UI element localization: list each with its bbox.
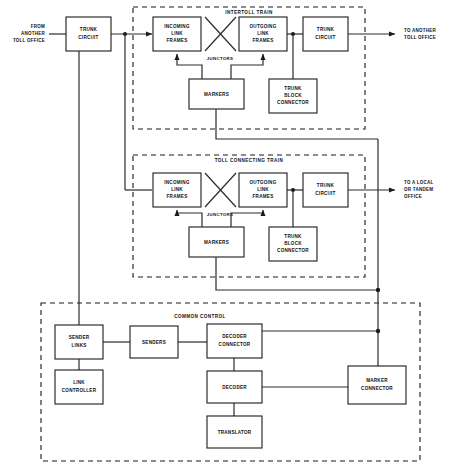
label-it-incoming-1: LINK	[171, 31, 183, 36]
label-tc-trunkblock-0: TRUNK	[284, 234, 302, 239]
label-sender-links-1: LINKS	[71, 343, 86, 348]
label-sender-links-0: SENDER	[69, 335, 90, 340]
label-it-trunk-out-0: TRUNK	[317, 27, 335, 32]
label-tc-outgoing-1: LINK	[257, 187, 269, 192]
label-marker-connector-0: MARKER	[366, 378, 388, 383]
label-it-trunk-out-1: CIRCUIT	[315, 35, 335, 40]
label-senders: SENDERS	[142, 340, 166, 345]
junctors-intertoll	[205, 17, 236, 51]
block-diagram-svg: INTERTOLL TRAIN TOLL CONNECTING TRAIN CO…	[0, 0, 461, 475]
diagram-canvas: INTERTOLL TRAIN TOLL CONNECTING TRAIN CO…	[0, 0, 461, 475]
label-tc-incoming-1: LINK	[171, 187, 183, 192]
group-label-common-control: COMMON CONTROL	[174, 314, 226, 319]
svg-text:FROM: FROM	[31, 24, 45, 29]
label-it-incoming-2: FRAMES	[167, 38, 188, 43]
svg-text:TOLL OFFICE: TOLL OFFICE	[13, 38, 45, 43]
svg-text:ANOTHER: ANOTHER	[21, 31, 45, 36]
svg-text:TO A LOCAL: TO A LOCAL	[404, 180, 434, 185]
wire-tc-markers-to-bus	[216, 257, 378, 290]
group-label-intertoll: INTERTOLL TRAIN	[225, 10, 273, 15]
label-tc-incoming-0: INCOMING	[164, 180, 190, 185]
label-trunk-circuit-in-0: TRUNK	[80, 27, 98, 32]
label-it-outgoing-0: OUTGOING	[249, 24, 276, 29]
io-label-output-top: TO ANOTHER TOLL OFFICE	[404, 28, 437, 40]
svg-text:TOLL OFFICE: TOLL OFFICE	[404, 35, 436, 40]
wire-it-markers-to-incoming	[177, 54, 202, 79]
label-it-outgoing-1: LINK	[257, 31, 269, 36]
label-tc-trunk-out-0: TRUNK	[317, 183, 335, 188]
label-junctors-intertoll: JUNCTORS	[207, 56, 233, 61]
label-it-trunkblock-1: BLOCK	[284, 93, 302, 98]
label-tc-trunk-out-1: CIRCUIT	[315, 191, 335, 196]
junctors-toll-connecting	[205, 173, 236, 207]
wire-tc-markers-to-outgoing	[231, 210, 263, 227]
svg-text:TO ANOTHER: TO ANOTHER	[404, 28, 437, 33]
label-it-trunkblock-2: CONNECTOR	[277, 100, 309, 105]
label-tc-incoming-2: FRAMES	[167, 194, 188, 199]
junction-dot-bus-tc-markers	[376, 288, 380, 292]
label-marker-connector-1: CONNECTOR	[361, 386, 393, 391]
io-label-output-mid: TO A LOCAL OR TANDEM OFFICE	[404, 180, 434, 199]
label-junctors-toll-connecting: JUNCTORS	[207, 212, 233, 217]
label-link-controller-0: LINK	[73, 380, 85, 385]
label-it-trunkblock-0: TRUNK	[284, 86, 302, 91]
label-it-markers: MARKERS	[204, 92, 229, 97]
label-it-incoming-0: INCOMING	[164, 24, 190, 29]
label-it-outgoing-2: FRAMES	[253, 38, 274, 43]
svg-text:OFFICE: OFFICE	[404, 194, 422, 199]
label-tc-trunkblock-2: CONNECTOR	[277, 248, 309, 253]
label-decoder-connector-0: DECODER	[222, 334, 247, 339]
label-translator: TRANSLATOR	[218, 430, 252, 435]
label-tc-trunkblock-1: BLOCK	[284, 241, 302, 246]
label-decoder: DECODER	[222, 385, 247, 390]
label-trunk-circuit-in-1: CIRCUIT	[78, 35, 98, 40]
label-tc-markers: MARKERS	[204, 240, 229, 245]
wire-tc-markers-to-incoming	[177, 210, 202, 227]
label-tc-outgoing-2: FRAMES	[253, 194, 274, 199]
io-label-input-left: FROM ANOTHER TOLL OFFICE	[13, 24, 46, 43]
group-label-toll-connecting: TOLL CONNECTING TRAIN	[215, 158, 284, 163]
svg-text:OR TANDEM: OR TANDEM	[404, 187, 433, 192]
label-decoder-connector-1: CONNECTOR	[219, 342, 251, 347]
label-link-controller-1: CONTROLLER	[62, 388, 97, 393]
label-tc-outgoing-0: OUTGOING	[249, 180, 276, 185]
wire-it-markers-to-outgoing	[231, 54, 263, 79]
